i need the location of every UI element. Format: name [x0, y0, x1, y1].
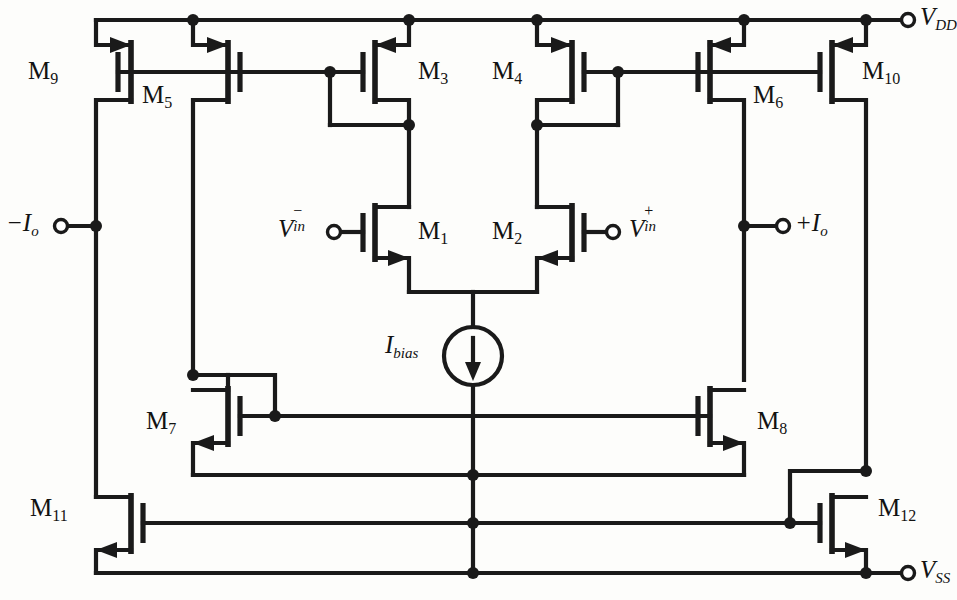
junction-dot	[187, 14, 199, 26]
label-M10: M10	[862, 58, 900, 87]
junction-dot	[531, 119, 543, 131]
vss-rail	[96, 567, 915, 580]
label-vss: VSS	[920, 557, 950, 586]
junction-dot	[467, 469, 479, 481]
minus-io-terminal-circle	[55, 220, 68, 233]
port-minus-io	[55, 220, 103, 233]
vin-plus-terminal-circle	[607, 226, 620, 239]
transistor-M5	[187, 14, 330, 375]
junction-dot	[531, 14, 543, 26]
transistor-M6	[618, 14, 750, 380]
label-minus-io: −Io	[6, 210, 39, 239]
junction-dot	[187, 369, 199, 381]
junction-dot	[860, 465, 872, 477]
transistor-M8	[698, 386, 744, 475]
junction-dot	[324, 66, 336, 78]
label-M2: M2	[492, 218, 522, 247]
port-plus-io	[738, 220, 790, 233]
label-M7: M7	[146, 408, 176, 437]
label-M6: M6	[753, 82, 783, 111]
label-ibias: Ibias	[385, 332, 418, 361]
transistor-M4	[531, 14, 624, 207]
vin-minus-terminal-circle	[328, 226, 341, 239]
junction-dot	[860, 14, 872, 26]
junction-dot	[738, 14, 750, 26]
label-M5: M5	[142, 82, 172, 111]
junction-dot	[403, 119, 415, 131]
label-M9: M9	[28, 58, 58, 87]
vdd-terminal-circle	[902, 14, 915, 27]
junction-dot	[467, 517, 479, 529]
tail-current-source	[409, 292, 537, 573]
junction-dot	[269, 410, 281, 422]
transistor-M9	[96, 20, 238, 222]
vdd-rail	[96, 14, 915, 27]
label-plus-io: +Io	[795, 210, 828, 239]
label-vdd: VDD	[920, 4, 957, 33]
transistor-M2	[537, 203, 620, 292]
label-M12: M12	[878, 495, 916, 524]
junction-dot	[467, 567, 479, 579]
junction-dot	[860, 567, 872, 579]
circuit-schematic: M9 M5 M3 M4 M6 M10 M1 M2 M7 M8 M11 M12 V…	[0, 0, 957, 600]
junction-dot	[784, 517, 796, 529]
transistor-M3	[324, 14, 415, 207]
label-M3: M3	[418, 58, 448, 87]
vss-terminal-circle	[902, 567, 915, 580]
transistor-M10	[698, 14, 872, 471]
junction-dot	[403, 14, 415, 26]
label-M1: M1	[418, 218, 448, 247]
label-vin-plus: V+in	[629, 212, 662, 241]
junction-dot	[90, 220, 102, 232]
label-vin-minus: V−in	[278, 212, 311, 241]
transistor-M1	[328, 203, 410, 292]
label-M8: M8	[757, 408, 787, 437]
junction-dot	[738, 220, 750, 232]
label-M4: M4	[492, 58, 522, 87]
label-M11: M11	[30, 495, 68, 524]
plus-io-terminal-circle	[777, 220, 790, 233]
transistor-M11	[96, 222, 790, 573]
